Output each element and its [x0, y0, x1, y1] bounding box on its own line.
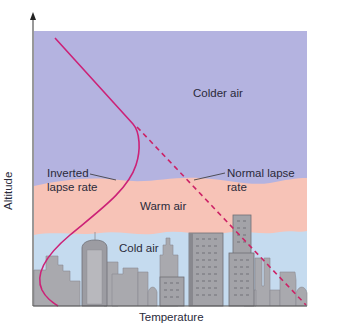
office-block-center	[189, 233, 223, 306]
normal-lapse-label-2: rate	[227, 181, 247, 194]
inversion-diagram	[0, 0, 338, 329]
warm-air-label: Warm air	[140, 200, 186, 213]
normal-lapse-label-1: Normal lapse	[227, 167, 295, 180]
cold-air-label: Cold air	[119, 242, 159, 255]
inverted-lapse-label-1: Inverted	[47, 167, 89, 180]
tall-tower-left	[82, 232, 107, 306]
inverted-lapse-label-2: lapse rate	[47, 181, 98, 194]
x-axis-label: Temperature	[139, 311, 204, 324]
colder-air-label: Colder air	[193, 87, 243, 100]
y-axis-label: Altitude	[2, 172, 14, 210]
y-axis-arrow-icon	[30, 12, 36, 20]
lower-block	[160, 277, 184, 306]
